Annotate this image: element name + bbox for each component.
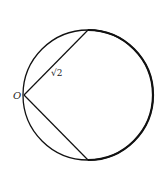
chord-length-label: √2 [51, 68, 62, 78]
circle-diagram: O √2 [0, 0, 161, 181]
thick-arc [88, 30, 153, 160]
chord-lower [24, 95, 88, 160]
point-o-label: O [13, 90, 21, 101]
chord-upper [24, 30, 88, 95]
